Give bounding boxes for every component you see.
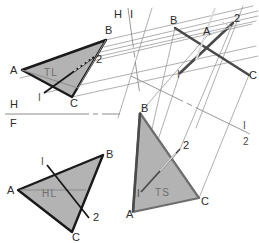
- frontal-view: A B C I 2 HL: [7, 148, 113, 243]
- vertex-label-b: B: [170, 14, 177, 26]
- vertex-label-b: B: [105, 24, 112, 36]
- cut-label-i: I: [137, 188, 140, 199]
- hf-fold-upper-label: H: [10, 98, 18, 110]
- vertex-label-a: A: [203, 25, 211, 37]
- vertex-label-a: A: [126, 208, 134, 220]
- hi-fold-upper-label: H: [114, 8, 122, 20]
- true-size-view: B A C I 2 TS: [126, 102, 209, 220]
- cut-label-2: 2: [234, 12, 240, 24]
- cut-label-2: 2: [183, 139, 189, 151]
- i2-fold-lower-label: 2: [243, 136, 249, 147]
- true-length-label: TL: [44, 67, 58, 78]
- triangle-abc-top: [22, 40, 106, 97]
- descriptive-geometry-drawing: H F H I I 2 A B C I 2 T: [0, 0, 259, 243]
- true-size-label: TS: [155, 187, 170, 198]
- vertex-label-c: C: [249, 69, 257, 81]
- cut-label-2: 2: [96, 53, 102, 65]
- vertex-label-a: A: [10, 64, 18, 76]
- hf-fold-line: H F: [5, 98, 120, 129]
- triangle-abc-front: [18, 155, 103, 232]
- cut-label-2: 2: [93, 211, 99, 223]
- vertex-label-b: B: [106, 148, 113, 160]
- cut-label-i: I: [41, 156, 44, 167]
- cut-label-i: I: [38, 92, 41, 103]
- horizontal-view: A B C I 2 TL: [10, 24, 112, 109]
- i2-fold-upper-label: I: [243, 120, 246, 131]
- vertex-label-c: C: [201, 195, 209, 207]
- vertex-label-b: B: [141, 102, 148, 114]
- vertex-label-c: C: [72, 231, 80, 243]
- hi-fold-lower-label: I: [130, 8, 133, 20]
- hf-fold-lower-label: F: [10, 117, 17, 129]
- cut-label-i: I: [177, 69, 180, 80]
- horizontal-line-label: HL: [42, 188, 57, 199]
- vertex-label-a: A: [7, 184, 15, 196]
- projector-line: [199, 75, 249, 198]
- vertex-label-c: C: [70, 97, 78, 109]
- projector-line: [180, 23, 233, 149]
- drawing-sheet: H F H I I 2 A B C I 2 T: [0, 0, 259, 243]
